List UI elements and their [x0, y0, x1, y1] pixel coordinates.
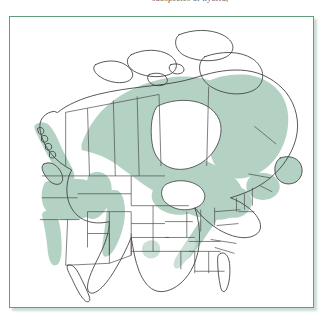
border-sc-nc: [215, 247, 235, 253]
arctic-island-victoria: [127, 50, 176, 76]
border-ca-nv: [66, 220, 68, 266]
map-canvas: [10, 17, 313, 307]
baja-california: [67, 265, 90, 302]
arctic-island-ellesmere: [176, 30, 233, 60]
arctic-island-banks: [94, 61, 133, 83]
florida-peninsula: [218, 253, 230, 292]
border-pa-md: [217, 224, 239, 226]
hudson-bay: [151, 100, 221, 169]
map-frame: [9, 16, 314, 308]
north-america-range-map: [10, 17, 313, 307]
caption-strip: subspecies or hybrid,: [0, 0, 325, 9]
figure-caption: subspecies or hybrid,: [152, 0, 228, 3]
range-ozark-wisp: [142, 240, 160, 258]
